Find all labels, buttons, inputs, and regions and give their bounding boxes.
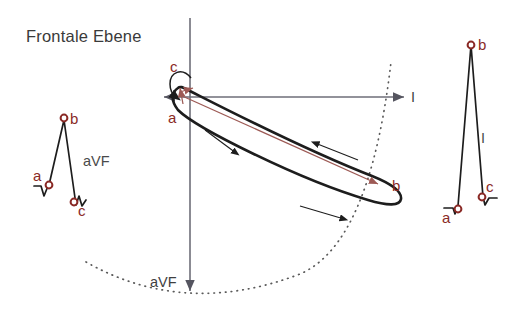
- loop-label-a: a: [168, 109, 177, 126]
- waveform-right-lead-i: a b c I: [442, 36, 497, 226]
- waveform-left-marker-a: [46, 182, 53, 189]
- waveform-right-label-c: c: [486, 178, 494, 195]
- loop-flow-arrow-upper-right: [315, 143, 358, 160]
- waveform-left-marker-c: [71, 199, 78, 206]
- waveform-left-lead-label: aVF: [83, 153, 110, 169]
- vectorcardiogram-figure: Frontale Ebene: [0, 0, 519, 315]
- waveform-left-label-c: c: [78, 202, 86, 219]
- axis-label-lead-i: I: [411, 89, 415, 105]
- mean-qrs-vector-to-b: [180, 95, 378, 184]
- waveform-left-label-b: b: [70, 110, 78, 127]
- figure-canvas: Frontale Ebene: [0, 0, 519, 315]
- waveform-left-avf: a b c aVF: [33, 110, 110, 219]
- waveform-left-trace: [34, 120, 86, 206]
- loop-flow-arrow-bottom: [300, 206, 344, 219]
- loop-outline: [173, 87, 401, 204]
- axis-group: [164, 18, 404, 291]
- figure-title: Frontale Ebene: [26, 27, 142, 45]
- qrs-vector-loop: [170, 72, 401, 219]
- waveform-right-marker-a: [455, 206, 462, 213]
- axis-label-avf: aVF: [150, 274, 177, 290]
- loop-label-c: c: [170, 58, 178, 75]
- waveform-right-marker-c: [479, 194, 486, 201]
- waveform-left-marker-b: [61, 115, 68, 122]
- waveform-right-label-b: b: [478, 36, 486, 53]
- waveform-left-label-a: a: [33, 167, 42, 184]
- waveform-right-label-a: a: [442, 209, 451, 226]
- waveform-right-marker-b: [468, 42, 475, 49]
- waveform-right-lead-label: I: [481, 130, 485, 146]
- loop-label-b: b: [392, 177, 400, 194]
